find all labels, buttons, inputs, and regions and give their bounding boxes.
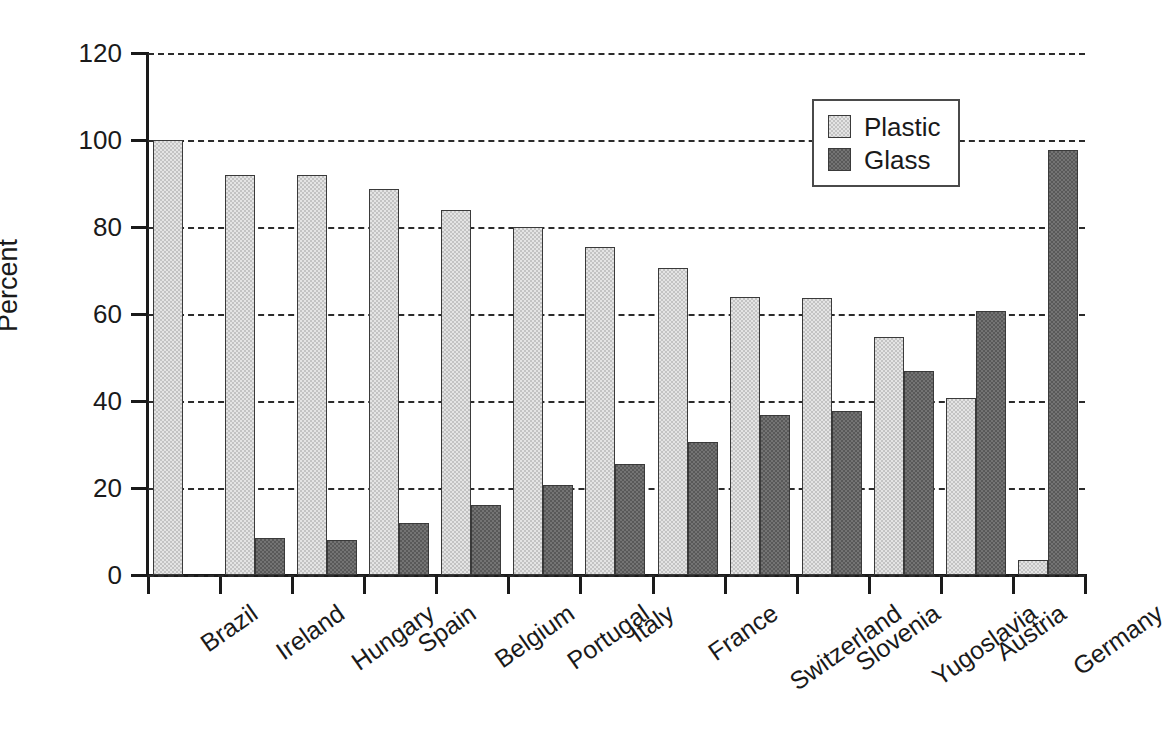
y-axis-tick-label: 120 — [60, 40, 122, 66]
x-axis-tick — [796, 577, 799, 594]
legend-label-glass: Glass — [864, 147, 930, 173]
legend-swatch-plastic-icon — [828, 115, 851, 138]
x-axis-label-brazil: Brazil — [197, 600, 263, 656]
x-axis-tick — [147, 577, 150, 594]
bar-austria-plastic — [946, 398, 976, 575]
bar-switzerland-plastic — [730, 297, 760, 575]
x-axis-tick — [507, 577, 510, 594]
legend-item-glass: Glass — [828, 143, 958, 176]
bar-germany-glass — [1048, 150, 1078, 575]
bar-brazil-plastic — [153, 140, 183, 575]
bar-yugoslavia-glass — [904, 371, 934, 575]
x-axis-tick — [940, 577, 943, 594]
gridline — [148, 53, 1085, 55]
bar-belgium-plastic — [441, 210, 471, 575]
bar-spain-plastic — [369, 189, 399, 575]
bar-austria-glass — [976, 311, 1006, 575]
y-axis-title: Percent — [0, 239, 24, 332]
y-axis-tick-label: 20 — [60, 475, 122, 501]
bar-germany-plastic — [1018, 560, 1048, 575]
bar-hungary-plastic — [297, 175, 327, 575]
y-axis-tick-label: 60 — [60, 301, 122, 327]
bar-ireland-glass — [255, 538, 285, 575]
bar-portugal-plastic — [513, 227, 543, 575]
x-axis-tick — [652, 577, 655, 594]
chart-legend: Plastic Glass — [812, 99, 960, 187]
x-axis-label-belgium: Belgium — [490, 600, 578, 672]
bar-spain-glass — [399, 523, 429, 575]
x-axis-tick — [1084, 577, 1087, 594]
bar-ireland-plastic — [225, 175, 255, 575]
x-axis-label-france: France — [704, 600, 782, 665]
x-axis-tick — [219, 577, 222, 594]
x-axis-label-ireland: Ireland — [271, 600, 348, 664]
bar-slovenia-plastic — [802, 298, 832, 575]
bar-switzerland-glass — [760, 415, 790, 575]
y-axis-tick-label: 80 — [60, 214, 122, 240]
bar-italy-glass — [615, 464, 645, 575]
bar-slovenia-glass — [832, 411, 862, 575]
y-axis-tick-label: 0 — [60, 562, 122, 588]
gridline — [148, 401, 1085, 403]
gridline — [148, 314, 1085, 316]
x-axis-tick — [1012, 577, 1015, 594]
gridline — [148, 575, 1085, 577]
bar-hungary-glass — [327, 540, 357, 575]
bar-france-glass — [688, 442, 718, 575]
y-axis-tick-label: 40 — [60, 388, 122, 414]
legend-swatch-glass-icon — [828, 148, 851, 171]
bar-yugoslavia-plastic — [874, 337, 904, 575]
x-axis-tick — [435, 577, 438, 594]
x-axis-tick — [868, 577, 871, 594]
x-axis-tick — [291, 577, 294, 594]
x-axis-label-germany: Germany — [1069, 600, 1166, 679]
x-axis-tick — [579, 577, 582, 594]
bar-france-plastic — [658, 268, 688, 575]
y-axis-tick-label: 100 — [60, 127, 122, 153]
bar-italy-plastic — [585, 247, 615, 575]
gridline — [148, 227, 1085, 229]
x-axis-tick — [363, 577, 366, 594]
bar-belgium-glass — [471, 505, 501, 575]
legend-label-plastic: Plastic — [864, 114, 941, 140]
legend-item-plastic: Plastic — [828, 110, 958, 143]
x-axis-tick — [724, 577, 727, 594]
bar-portugal-glass — [543, 485, 573, 575]
